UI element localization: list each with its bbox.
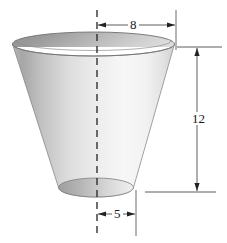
bottom-diameter-label: 5 — [112, 207, 123, 220]
top-dimension-arrow-left — [98, 22, 106, 27]
height-dimension-arrow-top — [194, 48, 199, 56]
height-dimension-arrow-bottom — [194, 183, 199, 191]
bottom-dimension-arrow-right — [127, 211, 135, 216]
top-dimension-arrow-right — [167, 22, 175, 27]
frustum-figure: 8 5 12 — [0, 0, 227, 243]
frustum-lateral-surface — [13, 44, 175, 197]
bottom-dimension-arrow-left — [98, 211, 106, 216]
top-diameter-label: 8 — [128, 18, 139, 31]
frustum-bottom-base — [59, 178, 134, 197]
height-label: 12 — [190, 112, 207, 125]
